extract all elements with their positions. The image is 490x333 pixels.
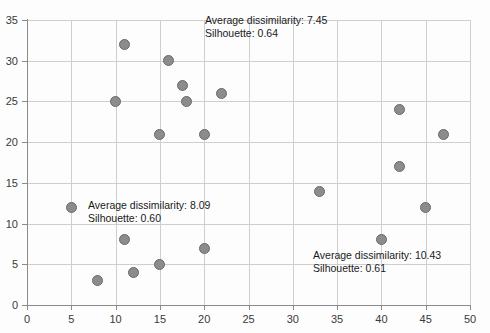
scatter-point	[438, 129, 449, 140]
x-axis-tick	[249, 305, 250, 310]
x-axis-tick-label: 30	[287, 313, 299, 325]
y-axis-tick	[22, 224, 27, 225]
y-axis-tick	[22, 101, 27, 102]
annotation-silhouette: Silhouette: 0.61	[313, 262, 441, 275]
annotation-silhouette: Silhouette: 0.60	[88, 212, 210, 225]
scatter-point	[128, 267, 139, 278]
y-axis-tick-label: 5	[12, 258, 18, 270]
y-axis-line	[27, 19, 28, 306]
x-axis-tick	[426, 305, 427, 310]
scatter-point	[199, 243, 210, 254]
scatter-point	[314, 186, 325, 197]
y-axis-tick-label: 20	[6, 136, 18, 148]
scatter-point	[199, 129, 210, 140]
gridline-vertical	[470, 20, 471, 305]
x-axis-tick	[116, 305, 117, 310]
y-axis-tick-label: 30	[6, 55, 18, 67]
x-axis-tick-label: 15	[154, 313, 166, 325]
x-axis-tick-label: 35	[331, 313, 343, 325]
gridline-vertical	[116, 20, 117, 305]
gridline-horizontal	[27, 61, 470, 62]
x-axis-tick-label: 45	[420, 313, 432, 325]
scatter-point	[177, 80, 188, 91]
x-axis-tick	[337, 305, 338, 310]
gridline-vertical	[204, 20, 205, 305]
gridline-vertical	[249, 20, 250, 305]
x-axis-tick-label: 20	[198, 313, 210, 325]
x-axis-tick	[293, 305, 294, 310]
annotation-cluster-left: Average dissimilarity: 8.09Silhouette: 0…	[88, 199, 210, 224]
y-axis-tick	[22, 61, 27, 62]
scatter-point	[154, 129, 165, 140]
x-axis-tick	[381, 305, 382, 310]
scatter-point	[420, 202, 431, 213]
y-axis-tick	[22, 142, 27, 143]
gridline-horizontal	[27, 183, 470, 184]
scatter-point	[181, 96, 192, 107]
y-axis-tick-label: 10	[6, 218, 18, 230]
annotation-silhouette: Silhouette: 0.64	[205, 27, 327, 40]
x-axis-tick	[27, 305, 28, 310]
annotation-cluster-top: Average dissimilarity: 7.45Silhouette: 0…	[205, 14, 327, 39]
x-axis-tick-label: 40	[375, 313, 387, 325]
y-axis-tick-label: 25	[6, 95, 18, 107]
y-axis-tick-label: 35	[6, 14, 18, 26]
y-axis-tick-label: 15	[6, 177, 18, 189]
x-axis-tick	[204, 305, 205, 310]
y-axis-tick	[22, 183, 27, 184]
scatter-point	[394, 161, 405, 172]
y-axis-tick	[22, 264, 27, 265]
x-axis-tick	[71, 305, 72, 310]
annotation-cluster-right: Average dissimilarity: 10.43Silhouette: …	[313, 249, 441, 274]
scatter-point	[66, 202, 77, 213]
x-axis-tick-label: 10	[109, 313, 121, 325]
annotation-dissimilarity: Average dissimilarity: 7.45	[205, 14, 327, 27]
x-axis-tick-label: 25	[242, 313, 254, 325]
y-axis-tick-label: 0	[12, 299, 18, 311]
gridline-vertical	[293, 20, 294, 305]
gridline-horizontal	[27, 101, 470, 102]
x-axis-tick-label: 0	[24, 313, 30, 325]
scatter-point	[110, 96, 121, 107]
annotation-dissimilarity: Average dissimilarity: 8.09	[88, 199, 210, 212]
x-axis-tick	[160, 305, 161, 310]
x-axis-tick-label: 50	[464, 313, 476, 325]
y-axis-tick	[22, 20, 27, 21]
annotation-dissimilarity: Average dissimilarity: 10.43	[313, 249, 441, 262]
x-axis-tick	[470, 305, 471, 310]
scatter-point	[394, 104, 405, 115]
gridline-horizontal	[27, 142, 470, 143]
scatter-point	[119, 39, 130, 50]
scatter-plot-figure: 0510152025303540455005101520253035 Avera…	[0, 0, 490, 333]
gridline-vertical	[71, 20, 72, 305]
x-axis-tick-label: 5	[68, 313, 74, 325]
y-axis-tick	[22, 305, 27, 306]
